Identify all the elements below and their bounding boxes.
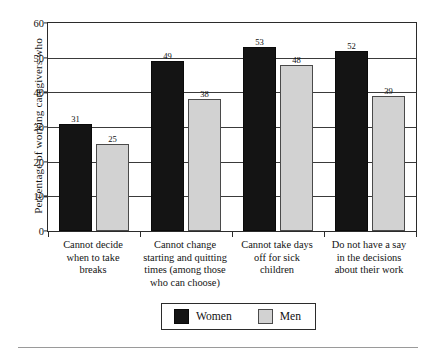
category-label-line: who can choose) xyxy=(132,277,238,290)
legend-item-women: Women xyxy=(174,309,232,324)
legend-item-men: Men xyxy=(258,309,301,324)
category-label-1: Cannot changestarting and quittingtimes … xyxy=(132,239,238,289)
bar-men-2: 48 xyxy=(280,65,313,231)
gray-square-swatch xyxy=(258,309,273,324)
x-tick-mark xyxy=(324,232,325,237)
y-tick-mark xyxy=(44,57,48,58)
chart-legend: WomenMen xyxy=(161,303,316,330)
y-tick-label: 30 xyxy=(34,122,45,133)
category-label-line: starting and quitting xyxy=(132,252,238,265)
plot-inner: 01020304050603125493853485239 xyxy=(48,23,416,231)
bar-value-label: 52 xyxy=(347,41,356,51)
bar-value-label: 53 xyxy=(255,37,264,47)
y-tick-label: 60 xyxy=(34,18,45,29)
bar-women-0: 31 xyxy=(59,124,92,231)
y-tick-label: 10 xyxy=(34,191,45,202)
plot-area: 01020304050603125493853485239 xyxy=(47,22,417,232)
footer-divider xyxy=(18,347,418,348)
legend-label: Men xyxy=(280,310,301,323)
category-label-line: in the decisions xyxy=(316,252,422,265)
category-label-line: Cannot take days xyxy=(224,239,330,252)
y-tick-label: 40 xyxy=(34,87,45,98)
category-label-line: about their work xyxy=(316,264,422,277)
category-label-line: Do not have a say xyxy=(316,239,422,252)
black-square-swatch xyxy=(174,309,189,324)
y-tick-mark xyxy=(44,196,48,197)
category-label-2: Cannot take daysoff for sickchildren xyxy=(224,239,330,277)
bar-value-label: 49 xyxy=(163,51,172,61)
bar-value-label: 39 xyxy=(384,86,393,96)
bar-women-3: 52 xyxy=(335,51,368,231)
x-tick-mark xyxy=(232,232,233,237)
y-tick-mark xyxy=(44,22,48,23)
bar-value-label: 38 xyxy=(200,89,209,99)
bar-value-label: 48 xyxy=(292,55,301,65)
bar-women-2: 53 xyxy=(243,47,276,231)
category-label-line: when to take xyxy=(40,252,146,265)
category-label-3: Do not have a sayin the decisionsabout t… xyxy=(316,239,422,277)
bar-women-1: 49 xyxy=(151,61,184,231)
category-label-line: children xyxy=(224,264,330,277)
bar-value-label: 25 xyxy=(108,134,117,144)
bar-men-0: 25 xyxy=(96,144,129,231)
bar-men-1: 38 xyxy=(188,99,221,231)
y-tick-mark xyxy=(44,161,48,162)
category-label-line: times (among those xyxy=(132,264,238,277)
bar-men-3: 39 xyxy=(372,96,405,231)
x-tick-mark xyxy=(140,232,141,237)
y-tick-mark xyxy=(44,92,48,93)
category-label-line: Cannot decide xyxy=(40,239,146,252)
y-tick-label: 20 xyxy=(34,156,45,167)
legend-label: Women xyxy=(196,310,232,323)
category-label-line: off for sick xyxy=(224,252,330,265)
category-label-0: Cannot decidewhen to takebreaks xyxy=(40,239,146,277)
bar-value-label: 31 xyxy=(71,114,80,124)
category-label-line: Cannot change xyxy=(132,239,238,252)
bar-chart-figure: Percentage of working caregivers who 010… xyxy=(0,0,435,355)
y-tick-label: 50 xyxy=(34,52,45,63)
x-tick-mark xyxy=(48,232,49,237)
x-tick-mark xyxy=(416,232,417,237)
category-label-line: breaks xyxy=(40,264,146,277)
y-tick-mark xyxy=(44,126,48,127)
